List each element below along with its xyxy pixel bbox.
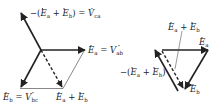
vector-ea-plus-eb-dashed [41,50,62,87]
left-phasor-group: −(Ea + Eb) = Vca Ea = Vab Eb = Vbc Ea + … [2,8,123,103]
label-ea-plus-eb-left: Ea + Eb [55,92,88,103]
label-vbc: Eb = Vbc [2,92,38,103]
parallelogram-right [63,51,84,89]
label-vab: Ea = Vab [87,45,123,56]
vector-neg-sum-vca [21,13,41,50]
vector-eb-vbc [21,50,41,87]
right-phasor-group: Ea + Eb Ea Eb −(Ea + Eb) [120,22,209,95]
vector-eb-right [185,50,208,89]
label-ea-right: Ea [198,37,209,48]
diagram-canvas: −(Ea + Eb) = Vca Ea = Vab Eb = Vbc Ea + … [0,0,219,105]
label-eb-right: Eb [189,84,200,95]
label-neg-sum-right: −(Ea + Eb) [120,67,166,78]
phasor-diagram: −(Ea + Eb) = Vca Ea = Vab Eb = Vbc Ea + … [0,0,219,105]
label-vca: −(Ea + Eb) = Vca [30,8,101,19]
label-ea-plus-eb-right: Ea + Eb [167,22,200,33]
